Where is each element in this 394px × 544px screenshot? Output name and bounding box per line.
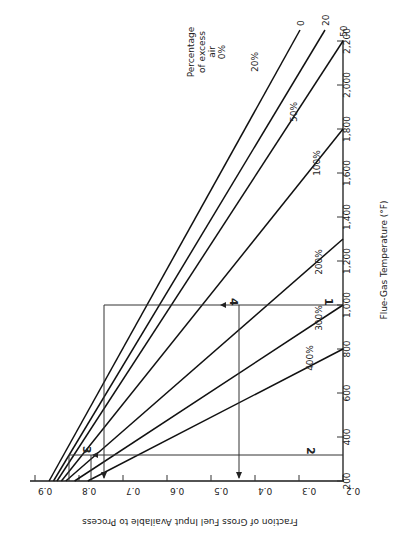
annotation-4: 4 (227, 298, 240, 306)
temperature-tick-label: 1,000 (342, 292, 352, 318)
temperature-tick-label: 400 (342, 428, 352, 445)
temperature-tick-label: 2,000 (342, 72, 352, 98)
annotation-3: 3 (80, 446, 93, 454)
x-axis-title: Flue-Gas Temperature (°F) (379, 200, 389, 319)
temperature-tick-label: 200 (342, 472, 352, 489)
fraction-tick-label: 0.9 (38, 486, 53, 496)
excess-air-lines: 020%2050%50100%200%300%400% (49, 14, 349, 481)
y-axis-title: Fraction of Gross Fuel Input Available t… (82, 517, 298, 527)
annotation-1: 1 (322, 298, 335, 306)
temperature-tick-label: 1,400 (342, 204, 352, 230)
svg-text:of excess: of excess (197, 31, 207, 73)
series-label: 20% (250, 52, 260, 72)
series-label: 200% (314, 249, 324, 275)
guide-lines (69, 302, 343, 481)
fraction-tick-label: 0.3 (302, 486, 316, 496)
fraction-tick-label: 0.6 (170, 486, 185, 496)
series-label: 300% (314, 305, 324, 331)
temperature-tick-label: 600 (342, 384, 352, 401)
excess-air-line (49, 30, 300, 481)
temperature-tick-label: 1,800 (342, 116, 352, 142)
temperature-tick-label: 1,600 (342, 160, 352, 186)
excess-air-line (66, 239, 343, 481)
series-label: 100% (312, 150, 322, 176)
fraction-axis-ticks: 0.20.30.40.50.60.70.80.9 (35, 475, 360, 496)
temperature-axis-ticks: 2004006008001,0001,2001,4001,6001,8002,0… (337, 28, 352, 490)
fraction-tick-label: 0.4 (258, 486, 273, 496)
svg-text:0%: 0% (217, 44, 227, 59)
series-end-label: 20 (321, 14, 331, 26)
series-label: 400% (305, 345, 315, 371)
svg-text:Percentage: Percentage (186, 26, 196, 77)
fraction-tick-label: 0.7 (126, 486, 140, 496)
svg-text:air: air (207, 46, 217, 58)
series-label: 50% (289, 102, 299, 122)
temperature-tick-label: 800 (342, 340, 352, 357)
legend-title: Percentage of excess air 0% (186, 26, 227, 77)
fraction-tick-label: 0.5 (214, 486, 228, 496)
excess-air-chart: 0.20.30.40.50.60.70.80.9 2004006008001,0… (0, 0, 394, 544)
series-end-label: 50 (339, 25, 349, 37)
series-end-label: 0 (296, 20, 306, 26)
excess-air-line (57, 41, 343, 481)
temperature-tick-label: 1,200 (342, 248, 352, 274)
annotation-2: 2 (304, 447, 317, 455)
fraction-tick-label: 0.8 (82, 486, 97, 496)
excess-air-line (53, 30, 325, 481)
